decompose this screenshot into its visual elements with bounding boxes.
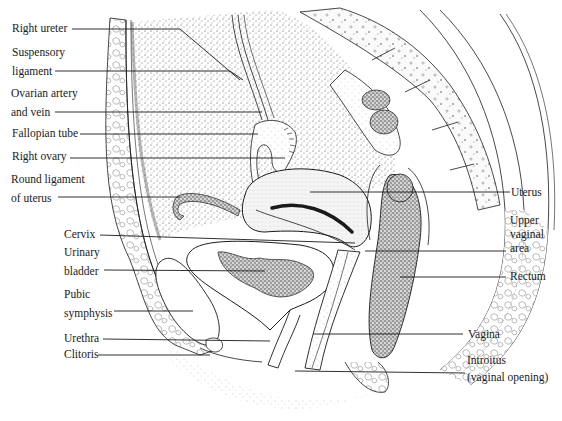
label-text: (vaginal opening) [467, 369, 548, 386]
label-urinary-bladder: Urinary bladder [64, 243, 100, 281]
label-text: Pubic [64, 285, 113, 304]
label-text: Round ligament [11, 170, 85, 189]
label-text: Right ureter [12, 22, 67, 34]
label-pubic-symphysis: Pubic symphysis [64, 285, 113, 323]
label-text: Vagina [468, 328, 500, 340]
label-ovarian-artery-vein: Ovarian artery and vein [11, 84, 78, 122]
rectum-shape [369, 174, 421, 357]
label-text: Right ovary [12, 150, 67, 162]
label-text: bladder [64, 262, 100, 281]
label-cervix: Cervix [64, 226, 95, 243]
label-right-ovary: Right ovary [12, 148, 67, 165]
label-text: Urinary [64, 243, 100, 262]
label-uterus: Uterus [511, 184, 542, 201]
label-text: Urethra [64, 332, 99, 344]
label-text: Rectum [510, 270, 546, 282]
label-text: Introitus [467, 352, 548, 369]
label-introitus: Introitus (vaginal opening) [467, 352, 548, 386]
label-rectum: Rectum [510, 268, 546, 285]
label-fallopian-tube: Fallopian tube [12, 125, 78, 142]
label-text: Ovarian artery [11, 84, 78, 103]
label-text: Upper [510, 213, 544, 227]
label-text: Fallopian tube [12, 127, 78, 139]
label-suspensory-ligament: Suspensory ligament [12, 43, 65, 81]
label-upper-vaginal-area: Upper vaginal area [510, 213, 544, 255]
label-round-ligament: Round ligament of uterus [11, 170, 85, 208]
label-text: ligament [12, 62, 65, 81]
label-text: area [510, 241, 544, 255]
label-text: Clitoris [64, 348, 99, 360]
label-text: and vein [11, 103, 78, 122]
label-text: Suspensory [12, 43, 65, 62]
label-text: of uterus [11, 189, 85, 208]
label-urethra: Urethra [64, 330, 99, 347]
label-clitoris: Clitoris [64, 346, 99, 363]
label-text: Cervix [64, 228, 95, 240]
label-right-ureter: Right ureter [12, 20, 67, 37]
label-text: Uterus [511, 186, 542, 198]
label-text: symphysis [64, 304, 113, 323]
label-text: vaginal [510, 227, 544, 241]
label-vagina: Vagina [468, 326, 500, 343]
